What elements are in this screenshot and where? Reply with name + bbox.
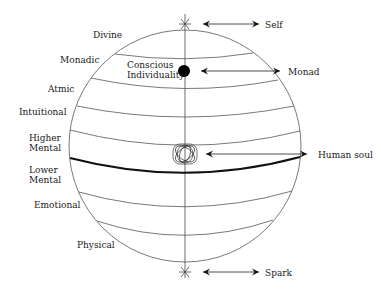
- conscious-individuality-label-line1: Conscious: [127, 60, 174, 70]
- human-soul-label: Human soul: [318, 150, 373, 160]
- plane-label-divine: Divine: [93, 30, 122, 40]
- plane-label-higher-mental-line1: Higher: [29, 133, 62, 143]
- plane-label-higher-mental-line2: Mental: [29, 143, 61, 153]
- spark-label: Spark: [265, 268, 293, 278]
- plane-boundary-lower-mental-emotional: [79, 191, 292, 207]
- plane-boundary-monadic-atmic: [91, 78, 278, 89]
- self-label: Self: [265, 20, 283, 30]
- plane-boundary-divine-monadic: [115, 53, 253, 59]
- plane-label-atmic: Atmic: [47, 84, 74, 94]
- plane-label-intuitional: Intuitional: [19, 107, 67, 117]
- plane-boundary-atmic-intuitional: [77, 106, 294, 117]
- conscious-individuality-label-line2: Individuality: [127, 70, 185, 80]
- planes-diagram: Self Monad Human soul Spark Conscious In…: [0, 0, 381, 296]
- monad-label: Monad: [288, 67, 320, 77]
- plane-label-physical: Physical: [77, 240, 115, 250]
- plane-label-lower-mental-line1: Lower: [29, 165, 58, 175]
- plane-label-monadic: Monadic: [60, 55, 99, 65]
- plane-label-emotional: Emotional: [34, 200, 81, 210]
- plane-label-lower-mental-line2: Mental: [29, 175, 61, 185]
